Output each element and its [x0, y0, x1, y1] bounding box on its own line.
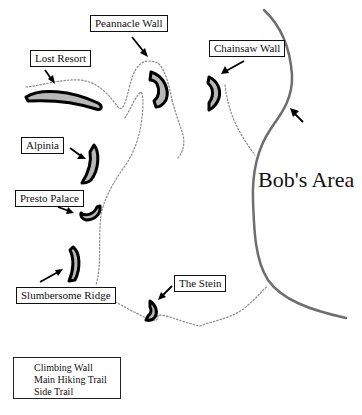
- arrow-lost-resort-icon: [45, 70, 55, 84]
- label-alpinia[interactable]: Alpinia: [21, 137, 64, 154]
- legend-label: Side Trail: [34, 386, 73, 397]
- wall-alpinia-icon[interactable]: [82, 145, 98, 183]
- legend-label: Climbing Wall: [34, 362, 93, 373]
- side-trail-chainsaw: [225, 85, 255, 155]
- legend-item-main-trail: Main Hiking Trail: [34, 373, 107, 385]
- wall-chainsaw-icon[interactable]: [208, 77, 220, 110]
- map-legend: Climbing Wall Main Hiking Trail Side Tra…: [13, 357, 121, 399]
- wall-stein-icon[interactable]: [146, 301, 156, 320]
- wall-peannacle-icon[interactable]: [150, 72, 167, 107]
- arrow-peannacle-icon: [132, 37, 148, 57]
- arrow-alpinia-icon: [70, 148, 86, 159]
- side-trail-east-branch: [172, 100, 184, 158]
- trail-map: Lost Resort Peannacle Wall Chainsaw Wall…: [0, 0, 362, 415]
- label-presto-palace[interactable]: Presto Palace: [15, 190, 84, 207]
- label-peannacle-wall[interactable]: Peannacle Wall: [90, 15, 168, 32]
- side-trail-peannacle-loop: [96, 92, 143, 285]
- arrow-stein-icon: [158, 286, 172, 300]
- wall-slumbersome-icon[interactable]: [69, 247, 79, 281]
- label-lost-resort[interactable]: Lost Resort: [30, 50, 91, 67]
- arrow-bobs-area-icon: [290, 108, 303, 122]
- wall-lost-resort-icon[interactable]: [26, 91, 101, 109]
- label-the-stein[interactable]: The Stein: [174, 275, 226, 292]
- arrow-slumbersome-icon: [40, 269, 63, 282]
- arrow-chainsaw-icon: [221, 61, 244, 74]
- wall-presto-palace-icon[interactable]: [81, 206, 100, 220]
- arrow-presto-palace-icon: [58, 207, 74, 214]
- side-trail-south: [98, 286, 268, 326]
- label-chainsaw-wall[interactable]: Chainsaw Wall: [209, 40, 285, 57]
- label-slumbersome-ridge[interactable]: Slumbersome Ridge: [16, 287, 116, 304]
- legend-label: Main Hiking Trail: [34, 374, 107, 385]
- area-label-bobs-area: Bob's Area: [258, 167, 354, 193]
- legend-item-side-trail: Side Trail: [34, 385, 73, 397]
- legend-item-climbing-wall: Climbing Wall: [34, 361, 93, 373]
